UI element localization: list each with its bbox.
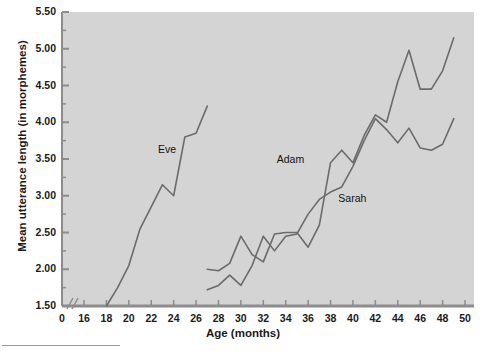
- x-axis-title: Age (months): [0, 327, 486, 339]
- series-label-adam: Adam: [277, 153, 304, 165]
- series-label-sarah: Sarah: [338, 192, 366, 204]
- plot-background: [62, 12, 474, 306]
- chart-canvas: [0, 0, 486, 351]
- y-tick-label: 5.00: [16, 42, 56, 54]
- y-tick-label: 5.50: [16, 5, 56, 17]
- y-tick-label: 3.50: [16, 152, 56, 164]
- series-label-eve: Eve: [158, 143, 176, 155]
- y-tick-label: 2.00: [16, 262, 56, 274]
- bottom-divider: [2, 345, 120, 346]
- y-tick-label: 1.50: [16, 299, 56, 311]
- y-tick-label: 4.00: [16, 115, 56, 127]
- y-tick-label: 3.00: [16, 189, 56, 201]
- y-tick-label: 2.50: [16, 226, 56, 238]
- y-tick-label: 4.50: [16, 79, 56, 91]
- x-tick-label: 50: [450, 312, 480, 324]
- figure-container: Mean utterance length (in morphemes) Age…: [0, 0, 486, 351]
